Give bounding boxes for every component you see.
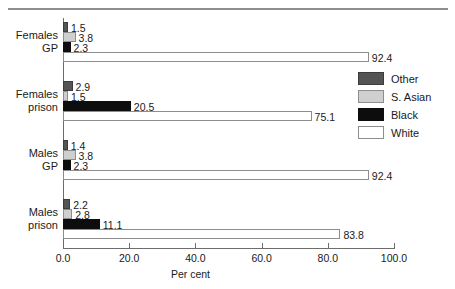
bar-value-label: 92.4 — [372, 171, 392, 181]
legend-item: White — [358, 124, 431, 141]
category-label-line2: GP — [0, 42, 58, 55]
category-label-line1: Males — [0, 147, 58, 160]
x-axis-tick-label: 0.0 — [56, 252, 71, 264]
bar-white — [63, 52, 369, 62]
figure: 0.020.040.060.080.0100.0 1.53.82.392.42.… — [0, 0, 455, 289]
legend-label: White — [391, 127, 419, 139]
bar-value-label: 92.4 — [372, 53, 392, 63]
bar-value-label: 83.8 — [343, 230, 363, 240]
bar-white — [63, 111, 312, 121]
category-label-line1: Males — [0, 206, 58, 219]
bar-other — [63, 81, 73, 91]
bar-black — [63, 101, 131, 111]
legend-item: Other — [358, 70, 431, 87]
x-axis-tick-label: 20.0 — [119, 252, 139, 264]
x-axis-title-text: Per cent — [171, 268, 210, 280]
category-label-line1: Females — [0, 29, 58, 42]
bar-white — [63, 170, 369, 180]
x-axis-tick — [129, 243, 130, 249]
bar-value-label: 75.1 — [315, 112, 335, 122]
x-axis-tick-label: 80.0 — [318, 252, 338, 264]
bar-sasian — [63, 150, 76, 160]
x-axis-tick — [63, 243, 64, 249]
legend-item: Black — [358, 106, 431, 123]
bar-black — [63, 42, 71, 52]
bar-other — [63, 140, 68, 150]
legend-item: S. Asian — [358, 88, 431, 105]
category-label-line2: prison — [0, 101, 58, 114]
bar-black — [63, 219, 100, 229]
legend: OtherS. AsianBlackWhite — [358, 70, 431, 142]
x-axis-title: Per cent — [0, 268, 455, 280]
legend-label: S. Asian — [391, 91, 431, 103]
category-label: FemalesGP — [0, 29, 58, 54]
legend-label: Black — [391, 109, 418, 121]
bar-other — [63, 199, 70, 209]
bar-white — [63, 229, 340, 239]
category-label-line2: GP — [0, 160, 58, 173]
category-label-line1: Females — [0, 88, 58, 101]
x-axis-tick-label: 100.0 — [381, 252, 407, 264]
bar-sasian — [63, 91, 68, 101]
bar-black — [63, 160, 71, 170]
legend-swatch-black — [358, 108, 384, 121]
legend-swatch-other — [358, 72, 384, 85]
category-label: Femalesprison — [0, 88, 58, 113]
category-label-line2: prison — [0, 219, 58, 232]
legend-swatch-white — [358, 126, 384, 139]
x-axis-tick — [394, 243, 395, 249]
bar-other — [63, 22, 68, 32]
x-axis-tick-label: 40.0 — [185, 252, 205, 264]
x-axis-tick — [328, 243, 329, 249]
x-axis-tick — [262, 243, 263, 249]
x-axis-line — [63, 248, 395, 249]
legend-label: Other — [391, 73, 419, 85]
x-axis-tick — [195, 243, 196, 249]
bar-chart-plot: 0.020.040.060.080.0100.0 1.53.82.392.42.… — [0, 0, 455, 289]
category-label: Malesprison — [0, 206, 58, 231]
x-axis-tick-label: 60.0 — [251, 252, 271, 264]
bar-sasian — [63, 209, 72, 219]
bar-sasian — [63, 32, 76, 42]
category-label: MalesGP — [0, 147, 58, 172]
legend-swatch-sasian — [358, 90, 384, 103]
